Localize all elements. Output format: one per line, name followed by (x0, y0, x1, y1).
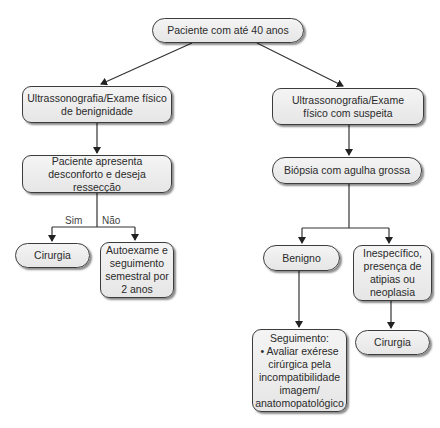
connector-lines (0, 0, 440, 428)
node-label: Inespecífico, presença de atipias ou neo… (358, 247, 427, 299)
edge-label-yes: Sim (65, 215, 82, 226)
node-patient-up-to-40: Paciente com até 40 anos (152, 18, 304, 43)
node-label: Paciente com até 40 anos (167, 24, 288, 37)
node-label: Cirurgia (374, 336, 411, 349)
node-label: Paciente apresenta desconforto e deseja … (27, 155, 167, 194)
flowchart: Paciente com até 40 anos Ultrassonografi… (0, 0, 440, 428)
node-label: Benigno (282, 252, 321, 265)
node-surgery-left: Cirurgia (15, 243, 90, 268)
node-label: Cirurgia (34, 249, 71, 262)
node-discomfort-resection: Paciente apresenta desconforto e deseja … (22, 155, 172, 193)
node-followup: Seguimento: • Avaliar exérese cirúrgica … (252, 329, 347, 412)
node-label: Ultrassonografia/Exame físico de benigni… (27, 92, 167, 118)
node-benign: Benigno (263, 245, 340, 271)
node-bullet: • Avaliar exérese cirúrgica pela incompa… (255, 345, 344, 410)
node-ultrasound-benign: Ultrassonografia/Exame físico de benigni… (22, 86, 172, 123)
node-self-exam: Autoexame e seguimento semestral por 2 a… (100, 242, 174, 298)
node-label: Biópsia com agulha grossa (284, 164, 410, 177)
node-nonspecific: Inespecífico, presença de atipias ou neo… (353, 245, 432, 301)
node-surgery-right: Cirurgia (355, 330, 430, 355)
node-ultrasound-suspect: Ultrassonografia/Exame físico com suspei… (272, 88, 424, 125)
node-label: Autoexame e seguimento semestral por 2 a… (105, 244, 169, 296)
edge-label-no: Não (102, 215, 120, 226)
node-label: Ultrassonografia/Exame físico com suspei… (287, 94, 409, 120)
node-title: Seguimento: (270, 332, 329, 345)
node-core-biopsy: Biópsia com agulha grossa (272, 157, 422, 184)
